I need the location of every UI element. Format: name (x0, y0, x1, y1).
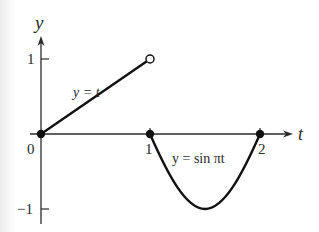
t-tick-label-0: 0 (27, 141, 35, 157)
point-2-0-filled (256, 130, 264, 138)
point-1-1-open (146, 55, 154, 63)
point-1-0-filled (146, 130, 154, 138)
t-axis-label: t (298, 124, 304, 144)
curve-label-sin-pi-t: y = sin πt (172, 151, 225, 166)
piecewise-function-chart: y t 1 −1 0 1 2 y = t y = sin πt (0, 0, 319, 232)
curve-sin-pi-t (150, 134, 260, 209)
axes (30, 36, 293, 224)
t-tick-label-1: 1 (145, 141, 153, 157)
y-tick-label-minus-1: −1 (17, 201, 33, 217)
y-axis-label: y (33, 12, 44, 33)
y-tick-label-1: 1 (27, 51, 35, 67)
point-origin-filled (37, 130, 45, 138)
curve-label-y-equals-t: y = t (71, 85, 101, 100)
t-tick-label-2: 2 (258, 141, 266, 157)
